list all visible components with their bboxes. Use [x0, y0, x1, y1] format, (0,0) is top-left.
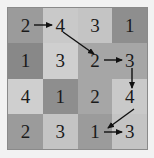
cell-value: 4 [55, 16, 65, 35]
number-grid: 2 4 3 1 1 3 2 3 4 1 2 4 2 3 1 3 [8, 8, 147, 149]
grid-cell[interactable]: 1 [8, 43, 43, 78]
grid-cell[interactable]: 3 [78, 8, 113, 43]
cell-value: 3 [125, 51, 135, 70]
grid-cell[interactable]: 3 [112, 114, 147, 149]
cell-value: 1 [125, 16, 135, 35]
cell-value: 2 [21, 122, 31, 141]
cell-value: 4 [21, 87, 31, 106]
grid-cell[interactable]: 1 [43, 79, 78, 114]
grid-cell[interactable]: 1 [112, 8, 147, 43]
grid-frame: 2 4 3 1 1 3 2 3 4 1 2 4 2 3 1 3 [7, 7, 148, 150]
grid-cell[interactable]: 3 [43, 114, 78, 149]
cell-value: 2 [90, 87, 100, 106]
cell-value: 1 [21, 51, 31, 70]
cell-value: 3 [55, 122, 65, 141]
cell-value: 1 [55, 87, 65, 106]
grid-cell[interactable]: 1 [78, 114, 113, 149]
grid-cell[interactable]: 4 [112, 79, 147, 114]
cell-value: 3 [55, 51, 65, 70]
cell-value: 2 [21, 16, 31, 35]
grid-figure: 2 4 3 1 1 3 2 3 4 1 2 4 2 3 1 3 [0, 0, 154, 158]
cell-value: 3 [90, 16, 100, 35]
grid-cell[interactable]: 4 [43, 8, 78, 43]
grid-cell[interactable]: 4 [8, 79, 43, 114]
cell-value: 2 [90, 51, 100, 70]
grid-cell[interactable]: 2 [8, 8, 43, 43]
grid-cell[interactable]: 2 [8, 114, 43, 149]
cell-value: 4 [125, 87, 135, 106]
grid-cell[interactable]: 2 [78, 79, 113, 114]
grid-cell[interactable]: 2 [78, 43, 113, 78]
cell-value: 3 [125, 122, 135, 141]
grid-cell[interactable]: 3 [43, 43, 78, 78]
cell-value: 1 [90, 122, 100, 141]
grid-cell[interactable]: 3 [112, 43, 147, 78]
